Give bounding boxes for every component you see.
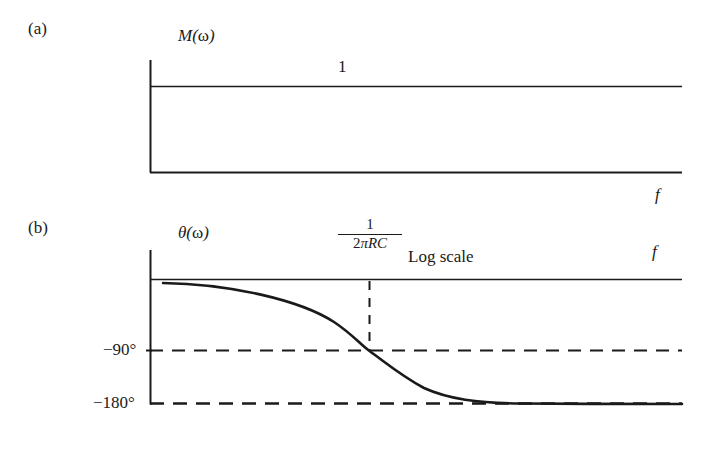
figure-canvas: (a) M(ω) 1 f (b) θ(ω) −90° −180° 1 2πRC … [0,0,710,455]
phase-response-curve [163,283,682,404]
panel-b-axes [146,250,682,405]
figure-linework [0,0,710,455]
panel-a-axes [150,60,682,173]
